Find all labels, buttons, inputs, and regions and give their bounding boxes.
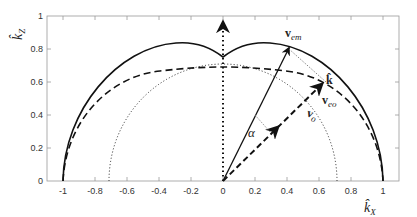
x-axis-label: k̂X [364,199,376,217]
v-em-label: vem [285,26,302,42]
x-tick: 0.6 [313,186,326,196]
v-eo-label: veo [322,93,337,109]
x-tick: 0.4 [281,186,294,196]
x-tick: -0.2 [183,186,199,196]
y-tick: 0.4 [30,110,43,120]
x-tick: -0.6 [119,186,135,196]
x-tick: 0.8 [345,186,358,196]
y-axis-label: k̂Z [9,28,27,40]
y-tick: 0 [38,176,43,186]
x-tick: 1 [380,186,385,196]
y-tick: 0.2 [30,143,43,153]
v-eo-arrow [223,84,322,181]
alpha-angle-marker [255,115,271,133]
k-hat-label: k̂ [326,73,333,87]
svg-text:k̂X: k̂X [364,199,376,217]
y-tick-labels: 0 0.2 0.4 0.6 0.8 1 [30,11,43,186]
v-o-label: vo [304,106,320,125]
y-tick: 1 [38,11,43,21]
x-tick: 0.2 [249,186,262,196]
y-tick: 0.8 [30,44,43,54]
x-tick: -0.4 [151,186,167,196]
x-tick: -0.8 [87,186,103,196]
x-tick: -1 [59,186,67,196]
polar-diagram: -1 -0.8 -0.6 -0.4 -0.2 0 0.2 0.4 0.6 0.8… [0,0,417,217]
svg-text:k̂Z: k̂Z [9,28,27,40]
x-tick-labels: -1 -0.8 -0.6 -0.4 -0.2 0 0.2 0.4 0.6 0.8… [59,186,386,196]
y-tick: 0.6 [30,77,43,87]
alpha-label: α [248,125,256,140]
x-tick: 0 [220,186,225,196]
dashed-curve-extraordinary [63,67,383,181]
